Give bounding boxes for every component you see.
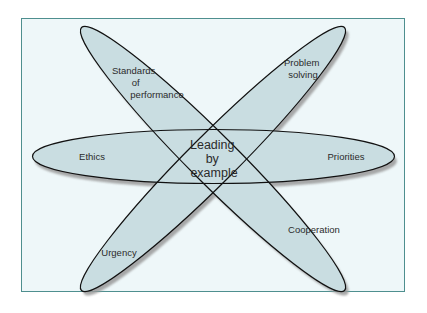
- label-priorities: Priorities: [328, 151, 365, 162]
- label-cooperation: Cooperation: [288, 224, 340, 235]
- label-urgency: Urgency: [101, 247, 137, 258]
- label-ethics: Ethics: [79, 151, 105, 162]
- leadership-diagram: Standards of performance Problem solving…: [0, 0, 427, 313]
- label-problem-solving: Problem solving: [284, 57, 322, 80]
